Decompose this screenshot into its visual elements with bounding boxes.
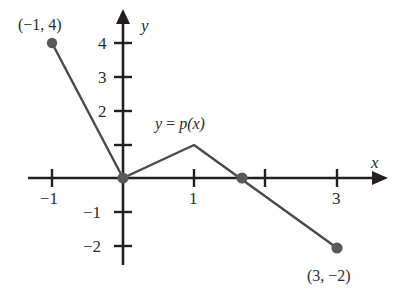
x-tick-label--1: −1 xyxy=(40,190,58,207)
curve-label-rhs: p(x) xyxy=(179,115,205,132)
x-axis-arrowhead xyxy=(372,171,388,185)
point-x-intercept xyxy=(236,172,247,183)
curve-label-operator: = xyxy=(162,115,179,132)
point-origin xyxy=(117,172,128,183)
y-axis-label: y xyxy=(141,17,149,34)
y-tick-label-4: 4 xyxy=(98,35,107,52)
y-tick-label-2: 2 xyxy=(98,103,107,120)
y-axis-arrowhead xyxy=(116,9,130,24)
x-tick-label-3: 3 xyxy=(332,190,341,207)
x-tick-label-1: 1 xyxy=(189,190,198,207)
point-3-minus2 xyxy=(331,242,342,253)
y-tick-label-3: 3 xyxy=(98,69,107,86)
y-tick-label--2: −2 xyxy=(83,238,101,255)
y-tick-label--1: −1 xyxy=(83,204,101,221)
left-endpoint-label: (−1, 4) xyxy=(18,17,62,33)
right-endpoint-label: (3, −2) xyxy=(307,268,351,284)
point-minus1-4 xyxy=(47,38,57,48)
graph-figure: y x −1 1 3 4 3 2 −1 −2 (−1, 4) (3, −2) y… xyxy=(0,0,397,301)
x-axis-label: x xyxy=(371,154,379,171)
plot-canvas xyxy=(0,0,397,301)
curve-label: y = p(x) xyxy=(155,116,205,132)
